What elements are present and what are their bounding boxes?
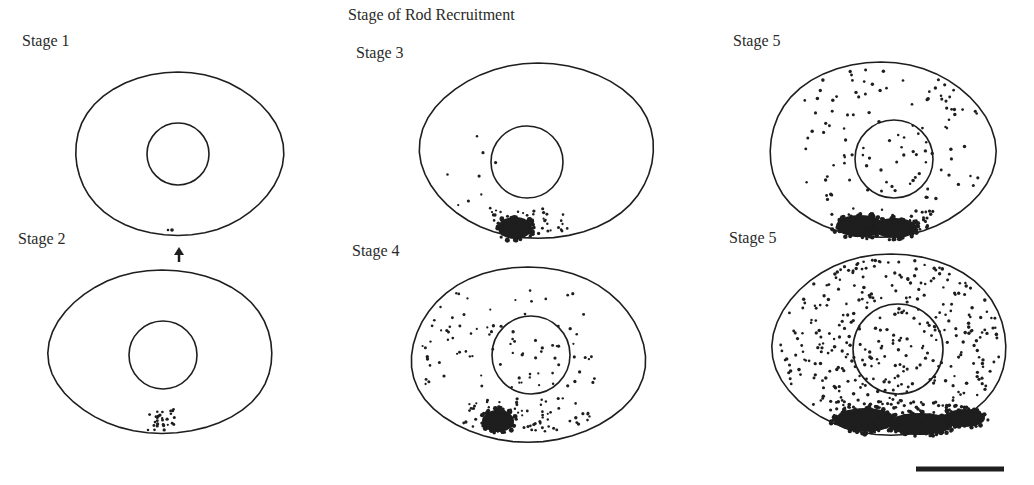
scale-bar (916, 467, 1004, 472)
cell-membrane (48, 270, 272, 434)
cell-stage4 (412, 267, 646, 442)
cell-stage1 (76, 72, 284, 236)
cell-membrane (770, 62, 996, 237)
cell-stage5a (770, 62, 996, 242)
cell-membrane (419, 63, 653, 238)
cell-membrane (772, 254, 1006, 435)
nucleus (147, 123, 209, 185)
cell-stage2 (48, 270, 272, 434)
cell-stage5b (772, 254, 1006, 438)
nucleus (855, 120, 933, 198)
cell-membrane (76, 72, 284, 236)
nucleus (129, 321, 197, 389)
figure-canvas (0, 0, 1034, 485)
nucleus (492, 316, 570, 394)
arrow-up-icon (174, 247, 184, 262)
cell-membrane (412, 267, 646, 442)
cell-drawings (48, 62, 1006, 442)
cell-stage3 (419, 63, 653, 243)
nucleus (491, 126, 563, 198)
